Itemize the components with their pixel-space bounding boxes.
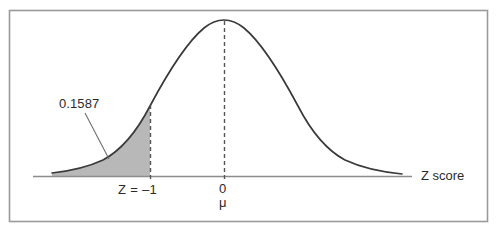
x-axis-title: Z score xyxy=(421,168,464,183)
x-tick-label-zero: 0 xyxy=(219,181,226,196)
distribution-chart xyxy=(0,0,497,237)
mean-symbol-label: μ xyxy=(219,195,227,210)
area-probability-label: 0.1587 xyxy=(59,96,99,111)
figure-frame xyxy=(10,11,488,222)
x-tick-label-z-minus-one: Z = –1 xyxy=(118,182,157,197)
normal-distribution-figure: 0.1587 Z = –1 0 μ Z score xyxy=(0,0,497,237)
